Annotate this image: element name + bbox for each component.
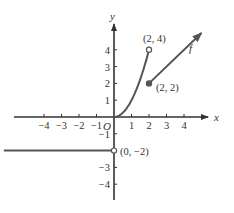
y-tick-label: −1 [99,129,110,140]
x-tick-label: 1 [129,120,134,131]
open-endpoint-marker [146,47,151,52]
piecewise-function-graph: x y O −4−3−2−112344321−1−3−4 (2, 4)(2, 2… [0,0,234,213]
y-tick-label: 3 [105,62,110,73]
y-tick-label: 2 [105,78,110,89]
y-tick-label: 1 [105,95,110,106]
x-tick-label: −4 [38,120,50,131]
x-tick-label: −2 [73,120,84,131]
x-tick-label: 2 [146,120,151,131]
open-endpoint-marker [111,148,116,153]
point-annotations: (2, 4)(2, 2)(0, −2) [111,33,179,158]
axes: x y O [14,10,219,200]
y-tick-label: −3 [99,162,110,173]
point-label: (2, 4) [143,33,166,45]
x-tick-label: 3 [164,120,169,131]
point-label: (0, −2) [120,146,149,158]
y-tick-label: 4 [105,45,111,56]
x-axis-label: x [213,111,219,123]
quadratic-piece-curve [114,50,149,117]
y-tick-label: −4 [99,179,111,190]
closed-endpoint-marker [146,81,151,86]
point-label: (2, 2) [156,82,179,94]
function-label: f [189,42,194,54]
y-axis-label: y [109,10,115,22]
x-tick-label: −3 [56,120,67,131]
x-tick-label: 4 [181,120,187,131]
